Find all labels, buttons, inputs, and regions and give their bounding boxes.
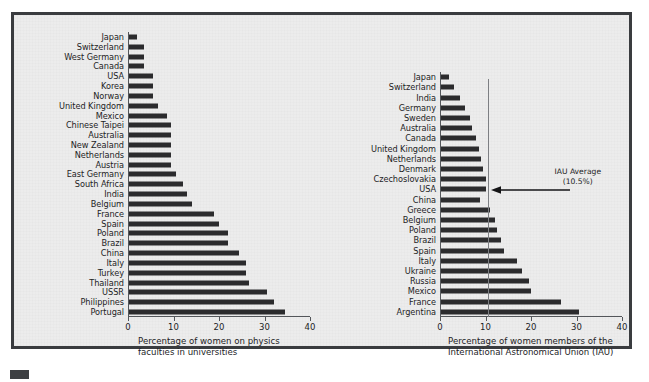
category-label: Mexico xyxy=(96,111,124,120)
bar-row: Brazil xyxy=(128,238,310,248)
bar-row: Japan xyxy=(128,32,310,42)
category-label: Ukraine xyxy=(405,267,436,276)
category-label: Poland xyxy=(97,229,124,238)
category-label: Mexico xyxy=(408,287,436,296)
category-label: United Kingdom xyxy=(371,144,436,153)
bar xyxy=(128,143,171,148)
category-label: USSR xyxy=(102,288,124,297)
bar-row: Turkey xyxy=(128,268,310,278)
bar xyxy=(128,310,285,315)
bar xyxy=(440,166,483,171)
category-label: South Africa xyxy=(75,180,124,189)
category-label: Switzerland xyxy=(77,42,124,51)
bar xyxy=(440,248,504,253)
bar xyxy=(440,115,470,120)
bar-row: Switzerland xyxy=(440,82,622,92)
bar xyxy=(128,241,228,246)
bar-row: Belgium xyxy=(128,199,310,209)
bar xyxy=(128,84,153,89)
category-label: Turkey xyxy=(98,268,124,277)
bar-row: Chinese Taipei xyxy=(128,120,310,130)
bar xyxy=(128,172,176,177)
bar-row: New Zealand xyxy=(128,140,310,150)
bar xyxy=(128,280,249,285)
category-label: Brazil xyxy=(413,236,436,245)
category-label: Thailand xyxy=(89,278,124,287)
x-tick-label: 0 xyxy=(437,322,442,332)
bar xyxy=(128,162,171,167)
bar xyxy=(128,133,171,138)
chart-panel-physics-faculties: JapanSwitzerlandWest GermanyCanadaUSAKor… xyxy=(32,15,322,346)
x-tick-label: 10 xyxy=(168,322,179,332)
bar-row: Netherlands xyxy=(128,150,310,160)
bar-row: Spain xyxy=(128,219,310,229)
bar xyxy=(440,258,517,263)
category-label: France xyxy=(409,297,436,306)
y-axis-line-right xyxy=(440,72,441,317)
category-label: Belgium xyxy=(403,216,436,225)
bar xyxy=(128,270,246,275)
bar-row: West Germany xyxy=(128,52,310,62)
category-label: Japan xyxy=(101,32,124,41)
bar xyxy=(128,290,267,295)
bar xyxy=(440,75,449,80)
bar xyxy=(128,300,274,305)
chart-panel-iau-members: JapanSwitzerlandIndiaGermanySwedenAustra… xyxy=(332,15,632,346)
x-axis-caption-right: Percentage of women members of the Inter… xyxy=(448,336,613,358)
category-label: Switzerland xyxy=(389,83,436,92)
bar-row: Italy xyxy=(440,256,622,266)
bar-row: Austria xyxy=(128,160,310,170)
bar xyxy=(128,123,171,128)
bar xyxy=(440,238,501,243)
category-label: Greece xyxy=(407,205,436,214)
bar-row: Brazil xyxy=(440,235,622,245)
bar xyxy=(440,207,490,212)
x-tick-label: 40 xyxy=(617,322,628,332)
x-tick xyxy=(265,317,266,321)
bar-row: Russia xyxy=(440,276,622,286)
bar-row: USSR xyxy=(128,288,310,298)
bar-row: Canada xyxy=(128,61,310,71)
category-label: Russia xyxy=(410,277,436,286)
category-label: Japan xyxy=(413,73,436,82)
bar-row: Poland xyxy=(440,225,622,235)
bar-row: China xyxy=(128,248,310,258)
category-label: Canada xyxy=(93,62,124,71)
bar xyxy=(128,201,192,206)
x-tick xyxy=(128,317,129,321)
bar xyxy=(440,197,480,202)
bar-row: Spain xyxy=(440,246,622,256)
bar-row: Philippines xyxy=(128,297,310,307)
x-axis-caption-left: Percentage of women on physics faculties… xyxy=(138,336,280,358)
bar-row: Switzerland xyxy=(128,42,310,52)
figure-root: JapanSwitzerlandWest GermanyCanadaUSAKor… xyxy=(0,0,649,382)
y-axis-line-left xyxy=(128,32,129,317)
bar xyxy=(440,126,472,131)
bar xyxy=(440,279,529,284)
bar xyxy=(128,93,153,98)
bar xyxy=(440,146,479,151)
bar-row: Netherlands xyxy=(440,154,622,164)
category-label: Denmark xyxy=(399,164,436,173)
x-tick xyxy=(577,317,578,321)
bar xyxy=(128,74,153,79)
category-label: Germany xyxy=(399,103,436,112)
category-label: Netherlands xyxy=(75,150,124,159)
category-label: New Zealand xyxy=(71,141,124,150)
x-tick xyxy=(531,317,532,321)
category-label: China xyxy=(101,249,124,258)
x-tick-label: 0 xyxy=(125,322,130,332)
category-label: Spain xyxy=(413,246,436,255)
x-tick xyxy=(174,317,175,321)
bar-row: Germany xyxy=(440,103,622,113)
bar-row: India xyxy=(440,92,622,102)
bar-row: Italy xyxy=(128,258,310,268)
x-tick-label: 20 xyxy=(214,322,225,332)
bar xyxy=(440,218,495,223)
category-label: Philippines xyxy=(80,298,124,307)
x-tick xyxy=(219,317,220,321)
plot-area-left: JapanSwitzerlandWest GermanyCanadaUSAKor… xyxy=(128,32,310,317)
category-label: Netherlands xyxy=(387,154,436,163)
iau-average-reference-line xyxy=(488,79,490,317)
category-label: West Germany xyxy=(64,52,124,61)
